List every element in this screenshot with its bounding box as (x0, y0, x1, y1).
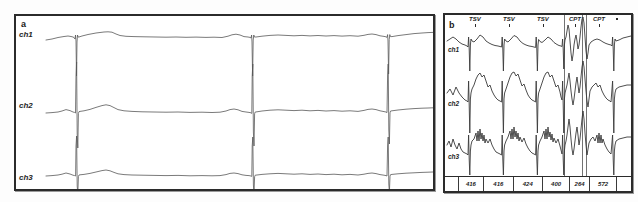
ecg-figure: a ch1 ch2 ch3 b TSV TSV TSV CPT CPT (0, 0, 638, 202)
interval-cell (445, 177, 459, 191)
panel-b-ch2-trace (447, 61, 631, 133)
interval-cell: 416 (484, 177, 513, 191)
interval-cell: 264 (570, 177, 590, 191)
panel-a-ch2-trace (46, 62, 433, 148)
interval-cell: 416 (459, 177, 484, 191)
interval-ruler: 416 416 424 400 264 572 (445, 176, 631, 191)
panel-a-ch1-trace (46, 32, 433, 76)
panel-b-ch1-trace (447, 17, 631, 71)
panel-b-ch3-trace (447, 111, 631, 175)
panel-b: b TSV TSV TSV CPT CPT ch1 ch2 ch3 (443, 13, 633, 193)
interval-cell: 572 (590, 177, 617, 191)
interval-cell: 400 (543, 177, 570, 191)
panel-a-traces (16, 16, 433, 189)
interval-cell: 424 (514, 177, 543, 191)
panel-a: a ch1 ch2 ch3 (14, 14, 435, 191)
panel-a-ch3-trace (46, 136, 433, 189)
interval-cell (617, 177, 631, 191)
panel-b-traces (445, 15, 631, 177)
